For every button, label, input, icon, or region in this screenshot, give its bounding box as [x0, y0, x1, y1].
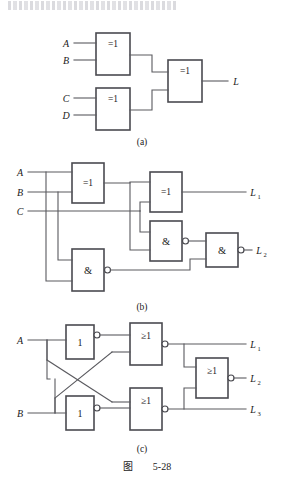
gate-b-nand1-symbol: & [84, 265, 92, 276]
gate-c-nor1-symbol: ≥1 [141, 331, 151, 341]
output-label-c-L1: L [249, 339, 256, 350]
subfigure-a [74, 33, 228, 130]
input-label-a-A: A [62, 38, 70, 49]
figure-5-28: =1 =1 =1 A B C D L (a) =1 =1 & & & A B C… [0, 0, 284, 488]
gate-b-xor1-symbol: =1 [83, 178, 93, 188]
subfigure-b [28, 163, 252, 291]
output-label-b-L2: L [255, 245, 262, 256]
output-label-c-L1-sub: 1 [257, 345, 260, 352]
output-label-c-L2-sub: 2 [257, 379, 260, 386]
gate-a-xor3-symbol: =1 [180, 66, 190, 76]
gate-b-xor2-symbol: =1 [161, 187, 171, 197]
output-label-b-L2-sub: 2 [263, 251, 266, 258]
input-label-b-B: B [17, 187, 23, 198]
gate-c-nor3-symbol: ≥1 [207, 366, 217, 376]
input-label-b-A: A [16, 167, 24, 178]
wire-b-C-to-nand2 [140, 211, 150, 232]
input-label-a-D: D [61, 110, 70, 121]
output-label-c-L3: L [249, 404, 256, 415]
bubble-c-nor1 [162, 341, 168, 347]
gate-c-not2-symbol: 1 [78, 408, 83, 419]
wire-b-B-branch [58, 192, 72, 260]
bubble-c-nor3 [228, 375, 234, 381]
input-label-a-C: C [63, 93, 70, 104]
subfigure-c [28, 323, 246, 430]
wire-c-nor2-to-nor3 [184, 388, 196, 409]
gate-c-nor3 [196, 358, 228, 398]
gate-b-nand2-symbol: & [162, 236, 170, 247]
bubble-c-not1 [94, 332, 100, 338]
gate-c-nor2-symbol: ≥1 [141, 396, 151, 406]
input-label-c-B: B [17, 408, 23, 419]
input-label-c-A: A [16, 335, 24, 346]
gate-c-nor2 [130, 388, 162, 430]
output-label-b-L1-sub: 1 [257, 193, 260, 200]
output-label-b-L1: L [249, 187, 256, 198]
input-label-a-B: B [63, 55, 69, 66]
bubble-c-nor2 [162, 406, 168, 412]
output-label-a-L: L [232, 76, 239, 87]
output-label-c-L2: L [249, 373, 256, 384]
wire-b-C-to-x2 [140, 202, 150, 211]
figure-caption-prefix: 图 [123, 461, 133, 472]
bubble-b-nand1 [105, 267, 111, 273]
wire-b-x1-out [104, 182, 150, 183]
wire-b-A-branch [46, 172, 72, 281]
gate-b-nand3-symbol: & [218, 245, 226, 256]
gate-a-xor2-symbol: =1 [108, 94, 118, 104]
subfigure-label-b: (b) [136, 302, 147, 313]
wire-a-x1-to-x3 [130, 55, 168, 72]
wire-c-nor1-to-nor3 [184, 344, 196, 367]
output-label-c-L3-sub: 3 [257, 410, 260, 417]
input-label-b-C: C [17, 206, 24, 217]
bubble-b-nand3 [238, 247, 244, 253]
gate-c-nor1 [130, 323, 162, 365]
bubble-b-nand2 [183, 238, 189, 244]
bubble-c-not2 [94, 405, 100, 411]
wire-a-x2-to-x3 [130, 90, 168, 110]
gate-a-xor1-symbol: =1 [108, 39, 118, 49]
subfigure-label-c: (c) [137, 444, 148, 455]
figure-caption-number: 5-28 [153, 461, 171, 472]
gate-c-not1-symbol: 1 [78, 337, 83, 348]
subfigure-label-a: (a) [137, 137, 148, 148]
